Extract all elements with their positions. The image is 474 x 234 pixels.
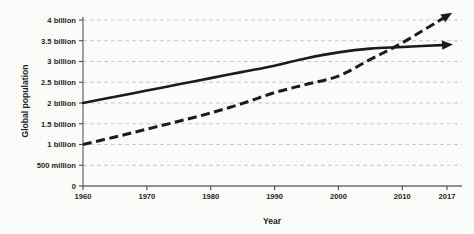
y-tick-label: 3 billion: [47, 57, 76, 66]
data-series-group: [83, 13, 453, 145]
y-tick-labels-group: 0500 million1 billion1.5 billion2 billio…: [37, 16, 77, 191]
series-line-solid-series: [83, 45, 447, 103]
y-tick-label: 3.5 billion: [41, 37, 76, 46]
x-tick-label: 1990: [266, 192, 283, 201]
y-tick-label: 0: [72, 182, 76, 191]
x-tick-label: 2010: [394, 192, 411, 201]
y-tick-label: 1.5 billion: [41, 120, 76, 129]
y-axis-title: Global population: [20, 64, 30, 137]
x-tick-label: 1980: [202, 192, 219, 201]
x-tick-label: 1960: [75, 192, 92, 201]
x-tick-label: 2017: [439, 192, 456, 201]
x-tick-label: 2000: [330, 192, 347, 201]
x-axis-title: Year: [263, 216, 282, 226]
series-line-dashed-series: [83, 16, 447, 145]
x-tick-labels-group: 1960197019801990200020102017: [75, 192, 456, 201]
y-tick-label: 2.5 billion: [41, 78, 76, 87]
y-tick-label: 1 billion: [47, 140, 76, 149]
y-tick-label: 4 billion: [47, 16, 76, 25]
x-tick-label: 1970: [138, 192, 155, 201]
arrowhead-solid-series: [442, 41, 453, 50]
y-tick-label: 2 billion: [47, 99, 76, 108]
population-line-chart: 0500 million1 billion1.5 billion2 billio…: [0, 0, 474, 234]
y-tick-label: 500 million: [37, 161, 77, 170]
chart-canvas: 0500 million1 billion1.5 billion2 billio…: [0, 0, 474, 234]
